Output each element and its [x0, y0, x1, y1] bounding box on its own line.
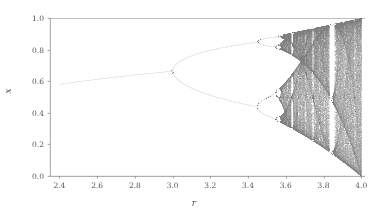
- y-axis-label: x: [3, 88, 13, 93]
- x-tick-label: 2.4: [53, 181, 65, 190]
- x-axis-label: r: [0, 198, 388, 208]
- x-tick-label: 3.6: [280, 181, 292, 190]
- x-tick-label: 3.0: [167, 181, 179, 190]
- bifurcation-diagram-figure: r x 2.42.62.83.03.23.43.63.84.0 0.00.20.…: [0, 0, 388, 222]
- y-tick-label: 0.2: [32, 140, 44, 149]
- x-tick-label: 3.8: [318, 181, 330, 190]
- y-tick-label: 0.0: [32, 172, 44, 181]
- y-tick-label: 0.6: [32, 77, 44, 86]
- x-tick-label: 3.4: [242, 181, 254, 190]
- y-tick-label: 0.8: [32, 45, 44, 54]
- y-tick-label: 1.0: [32, 14, 44, 23]
- x-tick-label: 2.8: [129, 181, 141, 190]
- x-tick-label: 4.0: [355, 181, 367, 190]
- x-tick-label: 2.6: [91, 181, 103, 190]
- x-tick-label: 3.2: [204, 181, 216, 190]
- y-tick-label: 0.4: [32, 108, 44, 117]
